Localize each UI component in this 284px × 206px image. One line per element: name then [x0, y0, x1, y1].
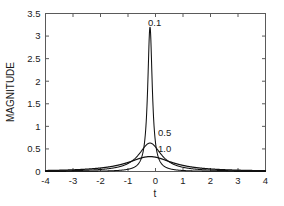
x-tick-label: -3: [69, 175, 77, 186]
curve-label-0.1: 0.1: [148, 17, 161, 28]
x-tick-label: 4: [263, 175, 268, 186]
y-tick-label: 1: [35, 121, 40, 132]
x-axis-title: t: [154, 188, 157, 199]
x-tick-label: -4: [41, 175, 49, 186]
y-tick-label: 2: [35, 76, 40, 87]
curve-label-0.5: 0.5: [158, 127, 171, 138]
x-tick-label: 2: [208, 175, 213, 186]
curve-label-1.0: 1.0: [158, 143, 171, 154]
x-tick-label: 3: [235, 175, 240, 186]
x-tick-label: -1: [124, 175, 132, 186]
y-tick-label: 3: [35, 30, 40, 41]
y-tick-label: 0: [35, 166, 40, 177]
y-tick-label: 2.5: [27, 53, 40, 64]
chart-figure: -4-3-2-101234 00.511.522.533.5 0.10.51.0…: [0, 0, 284, 206]
y-tick-label: 1.5: [27, 98, 40, 109]
y-tick-label: 3.5: [27, 8, 40, 19]
y-tick-label: 0.5: [27, 143, 40, 154]
plot-canvas: -4-3-2-101234 00.511.522.533.5 0.10.51.0…: [0, 0, 284, 206]
x-tick-label: 1: [180, 175, 185, 186]
x-tick-label: 0: [153, 175, 158, 186]
y-axis-title: MAGNITUDE: [5, 62, 16, 122]
x-tick-label: -2: [96, 175, 104, 186]
